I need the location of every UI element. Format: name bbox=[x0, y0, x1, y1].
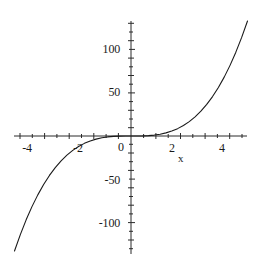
y-tick-label-neg100: -100 bbox=[70, 217, 120, 229]
plot-figure: 100 50 -50 -100 -4 -2 0 2 4 x bbox=[0, 0, 261, 277]
x-tick-label-0: 0 bbox=[113, 141, 129, 153]
plot-canvas bbox=[0, 0, 261, 277]
x-tick-label-neg2: -2 bbox=[66, 142, 90, 154]
y-tick-label-neg50: -50 bbox=[74, 174, 120, 186]
x-tick-label-4: 4 bbox=[214, 142, 230, 154]
y-tick-label-100: 100 bbox=[78, 43, 120, 55]
x-axis-label: x bbox=[178, 153, 184, 164]
x-tick-label-neg4: -4 bbox=[15, 142, 39, 154]
y-tick-label-50: 50 bbox=[78, 86, 120, 98]
